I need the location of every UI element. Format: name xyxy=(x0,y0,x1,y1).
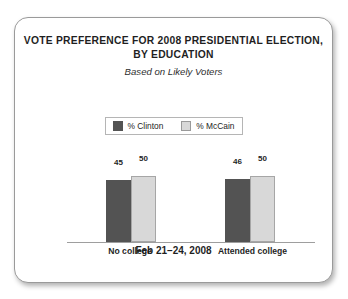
plot-area: 45 50 46 50 No college Attended college xyxy=(15,146,332,256)
bar-group-attended-college: 46 50 xyxy=(225,160,275,242)
bar-rect-mccain-attended-college xyxy=(250,176,275,242)
bar-mccain-attended-college[interactable]: 50 xyxy=(250,160,275,242)
chart-card: VOTE PREFERENCE FOR 2008 PRESIDENTIAL EL… xyxy=(14,17,333,283)
legend-item-mccain[interactable]: % McCain xyxy=(181,121,234,131)
bar-clinton-no-college[interactable]: 45 xyxy=(106,160,131,242)
bar-value-mccain-attended-college: 50 xyxy=(250,154,275,163)
bar-rect-clinton-no-college xyxy=(106,180,131,242)
axis-baseline xyxy=(67,242,315,243)
legend-label-mccain: % McCain xyxy=(196,121,234,131)
bar-value-mccain-no-college: 50 xyxy=(131,154,156,163)
mccain-swatch-icon xyxy=(181,121,191,131)
legend-item-clinton[interactable]: % Clinton xyxy=(112,121,163,131)
chart-legend: % Clinton % McCain xyxy=(104,117,242,135)
chart-title-line-2: BY EDUCATION xyxy=(15,48,332,62)
bar-value-clinton-attended-college: 46 xyxy=(225,157,250,166)
chart-title-block: VOTE PREFERENCE FOR 2008 PRESIDENTIAL EL… xyxy=(15,34,332,78)
bar-rect-clinton-attended-college xyxy=(225,179,250,242)
bar-value-clinton-no-college: 45 xyxy=(106,158,131,167)
bar-mccain-no-college[interactable]: 50 xyxy=(131,160,156,242)
bar-clinton-attended-college[interactable]: 46 xyxy=(225,160,250,242)
bar-group-no-college: 45 50 xyxy=(106,160,156,242)
chart-subtitle: Based on Likely Voters xyxy=(15,66,332,78)
bar-rect-mccain-no-college xyxy=(131,176,156,242)
chart-title-line-1: VOTE PREFERENCE FOR 2008 PRESIDENTIAL EL… xyxy=(15,34,332,48)
clinton-swatch-icon xyxy=(112,121,122,131)
chart-footer-date: Feb 21–24, 2008 xyxy=(15,245,332,256)
legend-label-clinton: % Clinton xyxy=(127,121,163,131)
